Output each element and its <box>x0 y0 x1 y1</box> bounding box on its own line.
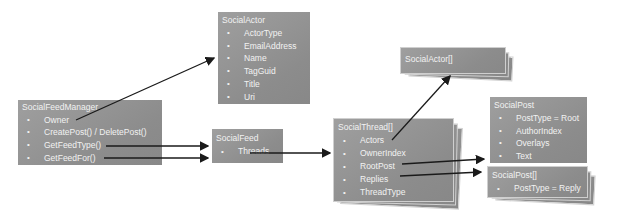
bullet-icon: • <box>27 114 30 127</box>
member-item: •PostType = Reply <box>492 182 583 195</box>
member-item: •GetFeedFor() <box>22 152 158 165</box>
member-label: Owner <box>44 115 69 125</box>
member-item: •OwnerIndex <box>338 147 449 160</box>
bullet-icon: • <box>499 150 502 163</box>
class-title: SocialActor[] <box>405 53 501 66</box>
member-list: •Owner•CreatePost() / DeletePost()•GetFe… <box>22 114 158 165</box>
bullet-icon: • <box>27 126 30 139</box>
class-box-socialfeed: SocialFeed •Threads <box>212 129 283 163</box>
class-box-surface: SocialThread[] •Actors•OwnerIndex•RootPo… <box>333 118 454 202</box>
member-label: AuthorIndex <box>516 126 562 136</box>
member-list: •Actors•OwnerIndex•RootPost•Replies•Thre… <box>338 134 449 199</box>
member-item: •ActorType <box>222 27 306 40</box>
class-title: SocialActor <box>222 14 306 27</box>
member-label: Title <box>244 79 260 89</box>
member-label: TagGuid <box>244 66 276 76</box>
bullet-icon: • <box>499 112 502 125</box>
bullet-icon: • <box>227 65 230 78</box>
class-box-socialactor-array: SocialActor[] <box>401 48 505 73</box>
bullet-icon: • <box>227 91 230 104</box>
member-item: •Uri <box>222 91 306 104</box>
member-label: RootPost <box>360 161 395 171</box>
member-label: PostType = Reply <box>514 183 581 193</box>
member-label: PostType = Root <box>516 113 579 123</box>
bullet-icon: • <box>27 152 30 165</box>
class-box-socialactor: SocialActor •ActorType•EmailAddress•Name… <box>218 12 310 104</box>
member-label: OwnerIndex <box>360 148 406 158</box>
class-box-surface: SocialFeed •Threads <box>212 129 283 163</box>
bullet-icon: • <box>343 134 346 147</box>
member-list: •PostType = Root•AuthorIndex•Overlays•Te… <box>494 112 583 163</box>
member-label: ThreadType <box>360 187 405 197</box>
member-item: •EmailAddress <box>222 40 306 53</box>
class-box-surface: SocialPost[] •PostType = Reply <box>487 166 588 198</box>
member-label: Text <box>516 151 532 161</box>
member-item: •Title <box>222 78 306 91</box>
member-item: •Threads <box>216 145 279 158</box>
member-list: •Threads <box>216 145 279 158</box>
class-title: SocialPost <box>494 99 583 112</box>
class-box-surface: SocialActor[] <box>400 47 506 74</box>
member-item: •Name <box>222 52 306 65</box>
bullet-icon: • <box>343 186 346 199</box>
class-title: SocialFeed <box>216 132 279 145</box>
class-box-socialfeedmanager: SocialFeedManager •Owner•CreatePost() / … <box>18 100 162 165</box>
bullet-icon: • <box>499 137 502 150</box>
bullet-icon: • <box>221 145 224 158</box>
class-box-surface: SocialFeedManager •Owner•CreatePost() / … <box>18 100 162 165</box>
bullet-icon: • <box>499 125 502 138</box>
class-box-socialpost: SocialPost •PostType = Root•AuthorIndex•… <box>490 97 587 163</box>
bullet-icon: • <box>227 40 230 53</box>
member-item: •PostType = Root <box>494 112 583 125</box>
member-item: •GetFeedType() <box>22 139 158 152</box>
diagram-canvas: SocialActor •ActorType•EmailAddress•Name… <box>0 0 619 220</box>
bullet-icon: • <box>227 27 230 40</box>
member-item: •AuthorIndex <box>494 125 583 138</box>
member-item: •CreatePost() / DeletePost() <box>22 126 158 139</box>
member-label: EmailAddress <box>244 41 296 51</box>
member-label: ActorType <box>244 28 282 38</box>
member-item: •Owner <box>22 114 158 127</box>
bullet-icon: • <box>227 52 230 65</box>
member-item: •RootPost <box>338 160 449 173</box>
member-item: •Text <box>494 150 583 163</box>
bullet-icon: • <box>343 160 346 173</box>
member-item: •Replies <box>338 173 449 186</box>
bullet-icon: • <box>27 139 30 152</box>
member-label: Threads <box>238 146 269 156</box>
bullet-icon: • <box>227 78 230 91</box>
member-item: •TagGuid <box>222 65 306 78</box>
member-label: Replies <box>360 174 388 184</box>
member-label: Actors <box>360 135 384 145</box>
member-label: GetFeedType() <box>44 140 101 150</box>
member-label: CreatePost() / DeletePost() <box>44 127 147 137</box>
class-title: SocialThread[] <box>338 121 449 134</box>
bullet-icon: • <box>343 147 346 160</box>
class-title: SocialPost[] <box>492 169 583 182</box>
class-box-surface: SocialActor •ActorType•EmailAddress•Name… <box>218 12 310 104</box>
class-box-socialpost-array: SocialPost[] •PostType = Reply <box>488 167 587 197</box>
member-label: Name <box>244 53 267 63</box>
bullet-icon: • <box>343 173 346 186</box>
member-list: •PostType = Reply <box>492 182 583 195</box>
member-label: GetFeedFor() <box>44 153 96 163</box>
member-label: Uri <box>244 92 255 102</box>
member-item: •Overlays <box>494 137 583 150</box>
class-box-surface: SocialPost •PostType = Root•AuthorIndex•… <box>490 97 587 163</box>
bullet-icon: • <box>497 182 500 195</box>
member-label: Overlays <box>516 138 550 148</box>
class-box-socialthread-array: SocialThread[] •Actors•OwnerIndex•RootPo… <box>334 119 453 201</box>
class-title: SocialFeedManager <box>22 101 158 114</box>
member-item: •ThreadType <box>338 186 449 199</box>
member-item: •Actors <box>338 134 449 147</box>
member-list: •ActorType•EmailAddress•Name•TagGuid•Tit… <box>222 27 306 104</box>
